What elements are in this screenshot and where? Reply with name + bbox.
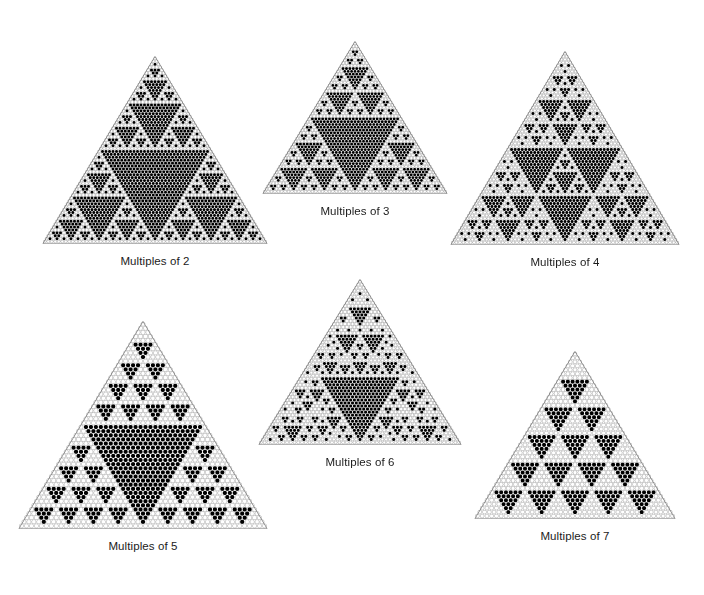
triangle-panel-3: Multiples of 3 xyxy=(260,39,450,196)
pascal-triangle-canvas-7 xyxy=(472,349,678,521)
pascal-triangle-canvas-2 xyxy=(40,54,270,246)
triangle-panel-7: Multiples of 7 xyxy=(472,349,678,521)
figure-root: Multiples of 2Multiples of 3Multiples of… xyxy=(0,0,704,595)
pascal-triangle-canvas-5 xyxy=(16,319,270,531)
panel-label-6: Multiples of 6 xyxy=(256,455,464,469)
pascal-triangle-canvas-6 xyxy=(256,277,464,447)
panel-label-2: Multiples of 2 xyxy=(40,254,270,268)
triangle-panel-2: Multiples of 2 xyxy=(40,54,270,246)
pascal-triangle-canvas-3 xyxy=(260,39,450,196)
panel-label-3: Multiples of 3 xyxy=(260,204,450,218)
panel-label-5: Multiples of 5 xyxy=(16,539,270,553)
triangle-panel-5: Multiples of 5 xyxy=(16,319,270,531)
triangle-panel-6: Multiples of 6 xyxy=(256,277,464,447)
panel-label-4: Multiples of 4 xyxy=(448,255,682,269)
triangle-panel-4: Multiples of 4 xyxy=(448,49,682,247)
panel-label-7: Multiples of 7 xyxy=(472,529,678,543)
pascal-triangle-canvas-4 xyxy=(448,49,682,247)
